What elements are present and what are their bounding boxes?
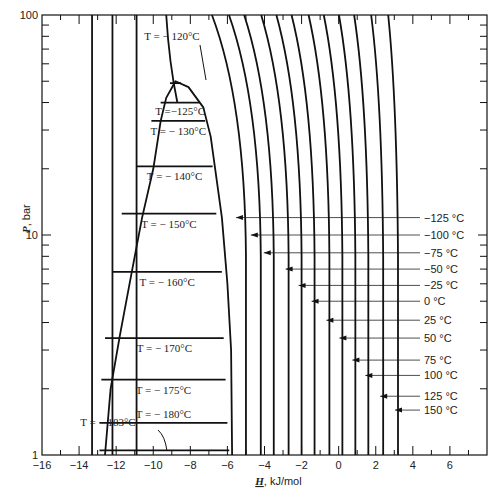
arrowhead-icon — [236, 215, 243, 220]
isotherm-label: 125 °C — [424, 390, 458, 402]
isotherm-label: 75 °C — [424, 354, 452, 366]
isotherm-label: −100 °C — [424, 229, 464, 241]
x-axis-title: H, kJ/mol — [254, 475, 301, 487]
x-tick-label: −10 — [144, 459, 163, 471]
arrowhead-icon — [264, 250, 271, 255]
arrowhead-icon — [251, 233, 258, 238]
tie-line-label: T = − 150°C — [141, 218, 196, 230]
x-tick-label: −12 — [107, 459, 126, 471]
tie-line-label: T = − 175°C — [136, 384, 191, 396]
vapor-isotherm — [212, 15, 246, 455]
leader-arrow — [200, 45, 206, 80]
saturation-dome — [105, 81, 232, 455]
isotherm-label: 25 °C — [424, 314, 452, 326]
isotherm-label: −25 °C — [424, 279, 458, 291]
x-tick-label: 6 — [447, 459, 453, 471]
tie-line-label: T = − 170°C — [137, 342, 192, 354]
isotherm-label: −75 °C — [424, 247, 458, 259]
isotherm-label: 50 °C — [424, 332, 452, 344]
x-tick-label: −6 — [221, 459, 234, 471]
x-tick-label: 2 — [373, 459, 379, 471]
x-tick-label: −14 — [70, 459, 89, 471]
tie-line-label: T = − 120°C — [144, 30, 199, 42]
tie-line-label: T =−125°C — [155, 105, 205, 117]
isotherm-label: 0 °C — [424, 295, 446, 307]
isotherm-label: 150 °C — [424, 404, 458, 416]
leader-arrow — [158, 430, 167, 451]
x-tick-label: 0 — [336, 459, 342, 471]
x-tick-label: 4 — [410, 459, 416, 471]
pressure-enthalpy-chart: −16−14−12−10−8−6−4−20246110100H, kJ/molP… — [0, 0, 503, 497]
isotherm-label: −125 °C — [424, 212, 464, 224]
y-tick-label: 1 — [32, 449, 38, 461]
x-tick-label: −2 — [295, 459, 308, 471]
tie-line-label: T = − 130°C — [151, 125, 206, 137]
isotherm-label: −50 °C — [424, 263, 458, 275]
tie-line-label: T = − 160°C — [139, 276, 194, 288]
x-tick-label: −4 — [258, 459, 271, 471]
tie-line-label: T = − 183°C — [80, 416, 135, 428]
isotherm-label: 100 °C — [424, 369, 458, 381]
tie-line-label: T = − 180°C — [136, 408, 191, 420]
tie-line-label: T = − 140°C — [147, 170, 202, 182]
y-tick-label: 100 — [20, 9, 38, 21]
y-axis-title: P, bar — [20, 204, 32, 233]
plot-area: −16−14−12−10−8−6−4−20246110100H, kJ/molP… — [20, 9, 487, 487]
x-tick-label: −8 — [184, 459, 197, 471]
